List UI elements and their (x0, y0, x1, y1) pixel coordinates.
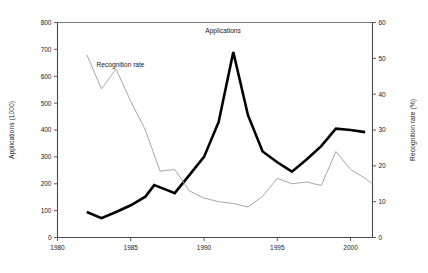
right-axis-tick-label: 0 (379, 234, 383, 241)
x-axis-tick-label: 1980 (50, 244, 65, 251)
x-axis-tick-label: 1990 (197, 244, 212, 251)
left-axis-tick-label: 700 (41, 46, 52, 53)
right-axis-tick-label: 30 (379, 126, 387, 133)
left-axis-tick-label: 500 (41, 100, 52, 107)
chart-background (0, 0, 428, 273)
left-axis-tick-label: 300 (41, 153, 52, 160)
annotation-applications: Applications (205, 27, 241, 35)
right-axis-tick-label: 10 (379, 198, 387, 205)
left-axis-tick-label: 0 (48, 234, 52, 241)
right-axis-tick-label: 50 (379, 55, 387, 62)
chart-container: 0100200300400500600700800 0102030405060 … (0, 0, 428, 273)
left-axis-tick-label: 600 (41, 73, 52, 80)
x-axis-tick-label: 1985 (124, 244, 139, 251)
left-axis-tick-label: 400 (41, 126, 52, 133)
right-axis-tick-label: 60 (379, 19, 387, 26)
right-axis-tick-label: 20 (379, 162, 387, 169)
x-axis-tick-label: 1995 (270, 244, 285, 251)
dual-axis-line-chart: 0100200300400500600700800 0102030405060 … (0, 0, 428, 273)
left-axis-tick-label: 100 (41, 207, 52, 214)
x-axis-tick-label: 2000 (343, 244, 358, 251)
annotation-recognition-rate: Recognition rate (96, 61, 144, 69)
left-axis-title: Applications (1000) (8, 101, 16, 159)
left-axis-tick-label: 200 (41, 180, 52, 187)
left-axis-tick-label: 800 (41, 19, 52, 26)
right-axis-title: Recognition rate (%) (409, 99, 417, 161)
right-axis-tick-label: 40 (379, 91, 387, 98)
